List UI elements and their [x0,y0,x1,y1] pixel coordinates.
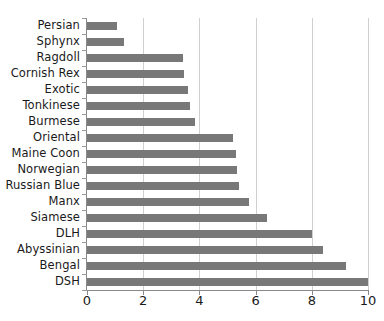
category-label: DSH [55,276,80,288]
category-label: Persian [37,20,80,32]
bar [87,134,233,142]
category-label: Cornish Rex [11,68,80,80]
category-label: Siamese [30,212,80,224]
bar [87,230,312,238]
category-label: Norwegian [17,164,80,176]
x-tick-label: 10 [360,294,377,308]
bar [87,86,188,94]
category-label: Sphynx [37,36,80,48]
category-tick-mark [82,258,87,259]
bar [87,182,239,190]
category-label: Russian Blue [5,180,80,192]
bar [87,166,237,174]
bar [87,246,323,254]
x-tick-label: 8 [308,294,316,308]
bar [87,22,117,30]
category-tick-mark [82,146,87,147]
category-axis-labels: PersianSphynxRagdollCornish RexExoticTon… [0,18,84,290]
category-label: DLH [56,228,80,240]
category-tick-mark [82,162,87,163]
category-tick-mark [82,114,87,115]
category-tick-mark [82,82,87,83]
category-tick-mark [82,130,87,131]
category-label: Maine Coon [11,148,80,160]
category-tick-mark [82,50,87,51]
bar [87,150,236,158]
bar-chart: PersianSphynxRagdollCornish RexExoticTon… [0,0,384,321]
x-tick-label: 0 [83,294,91,308]
category-tick-mark [82,242,87,243]
category-tick-mark [82,34,87,35]
category-tick-mark [82,226,87,227]
category-tick-mark [82,274,87,275]
bar [87,102,190,110]
gridline-10 [368,18,369,290]
bar [87,118,195,126]
category-label: Ragdoll [36,52,80,64]
bar [87,214,267,222]
category-tick-mark [82,210,87,211]
category-tick-mark [82,18,87,19]
category-tick-mark [82,98,87,99]
category-label: Tonkinese [22,100,80,112]
category-tick-mark [82,178,87,179]
category-label: Exotic [45,84,80,96]
category-tick-mark [82,66,87,67]
x-axis-line [86,290,368,291]
category-label: Abyssinian [17,244,80,256]
bar [87,70,184,78]
category-label: Bengal [40,260,80,272]
x-tick-label: 2 [139,294,147,308]
bar [87,198,249,206]
plot-area [87,18,368,290]
x-tick-label: 6 [251,294,259,308]
x-axis-tick-labels: 0246810 [87,294,368,316]
bar [87,54,183,62]
category-label: Burmese [28,116,80,128]
category-label: Manx [49,196,80,208]
bar [87,38,124,46]
bar [87,278,368,286]
bar [87,262,346,270]
category-tick-mark [82,194,87,195]
category-label: Oriental [33,132,80,144]
x-tick-label: 4 [195,294,203,308]
